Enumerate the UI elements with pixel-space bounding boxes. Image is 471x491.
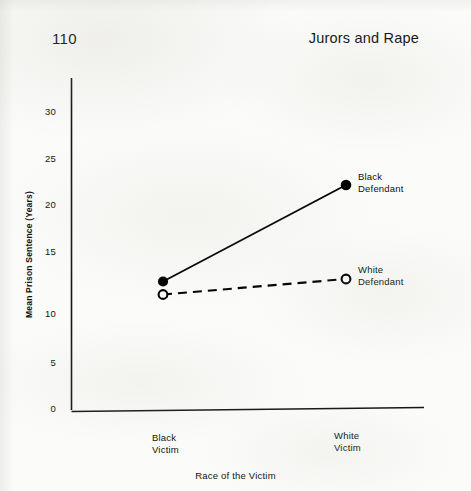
x-axis-title: Race of the Victim (0, 470, 471, 481)
series-label-black-defendant: Black Defendant (358, 171, 404, 194)
series-label-black-defendant-line2: Defendant (358, 183, 404, 195)
series-label-white-defendant-line2: Defendant (358, 276, 404, 288)
data-point-black-defendant-white-victim (341, 180, 352, 191)
x-tick-label-white-victim-line2: Victim (334, 442, 361, 454)
series-label-black-defendant-line1: Black (358, 171, 404, 183)
x-tick-label-black-victim: Black Victim (152, 432, 179, 455)
x-tick-label-white-victim: White Victim (334, 430, 361, 453)
series-label-white-defendant-line1: White (358, 264, 404, 276)
data-point-black-defendant-black-victim (158, 276, 168, 286)
plot-area (0, 0, 471, 491)
series-label-white-defendant: White Defendant (358, 264, 404, 287)
x-tick-label-white-victim-line1: White (334, 430, 361, 442)
x-tick-label-black-victim-line1: Black (152, 432, 179, 444)
data-point-white-defendant-white-victim (342, 275, 351, 284)
figure-line-chart: 110 Jurors and Rape Mean Prison Sentence… (0, 0, 471, 491)
x-axis-line (72, 408, 425, 412)
x-tick-label-black-victim-line2: Victim (152, 444, 179, 456)
series-line-black-defendant (163, 185, 346, 282)
series-line-white-defendant (163, 279, 346, 295)
data-point-white-defendant-black-victim (159, 290, 168, 299)
